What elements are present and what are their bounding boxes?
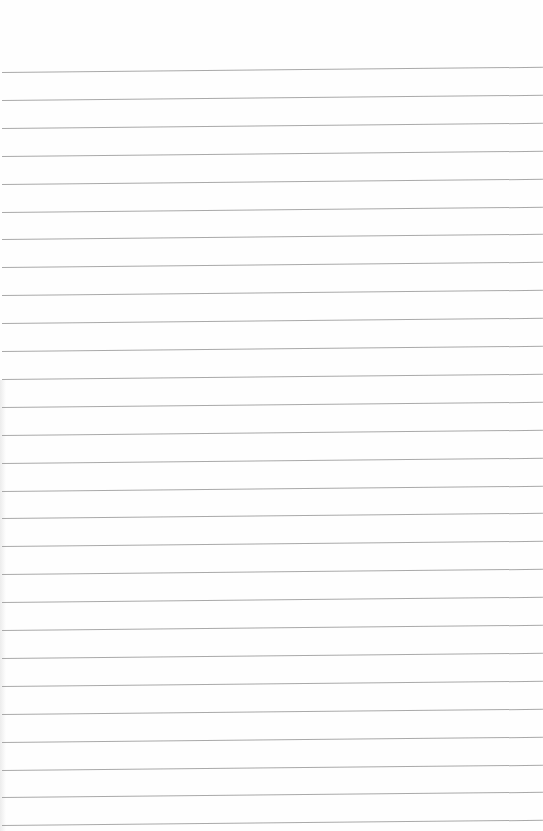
ruled-line (2, 402, 543, 409)
ruled-line (2, 457, 543, 464)
ruled-line (2, 736, 543, 743)
ruled-line (2, 708, 543, 715)
ruled-line (2, 625, 543, 632)
ruled-line (2, 653, 543, 660)
ruled-line (2, 541, 543, 548)
ruled-line (2, 792, 543, 799)
paper-edge-shadow (0, 380, 6, 831)
ruled-line (2, 569, 543, 576)
ruled-line (2, 764, 543, 771)
ruled-line (2, 346, 543, 353)
ruled-line (2, 67, 543, 74)
ruled-line (2, 429, 543, 436)
ruled-line (2, 95, 543, 102)
ruled-line (2, 513, 543, 520)
ruled-line (2, 290, 543, 297)
ruled-line (2, 206, 543, 213)
ruled-line (2, 820, 543, 827)
ruled-line (2, 485, 543, 492)
ruled-line (2, 681, 543, 688)
ruled-line (2, 318, 543, 325)
ruled-line (2, 374, 543, 381)
ruled-line (2, 123, 543, 130)
ruled-line (2, 178, 543, 185)
ruled-line (2, 150, 543, 157)
ruled-line (2, 597, 543, 604)
ruled-line (2, 262, 543, 269)
ruled-line (2, 234, 543, 241)
